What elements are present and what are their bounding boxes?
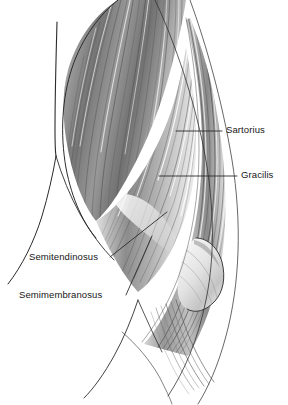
contour-hip-left <box>55 22 57 156</box>
label-semimembranosus: Semimembranosus <box>19 289 102 300</box>
contour-lower-leg-left <box>84 300 138 398</box>
contour-gluteal-fold-upper <box>8 156 56 284</box>
anatomy-illustration <box>0 0 288 405</box>
anatomy-figure: Sartorius Gracilis Semitendinosus Semime… <box>0 0 288 405</box>
muscle-masses <box>59 0 228 394</box>
label-semitendinosus: Semitendinosus <box>29 251 98 262</box>
label-sartorius: Sartorius <box>226 124 265 135</box>
label-gracilis: Gracilis <box>241 169 273 180</box>
